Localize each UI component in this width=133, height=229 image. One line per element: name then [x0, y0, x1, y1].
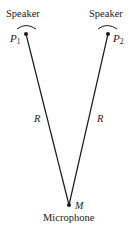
- microphone-label: Microphone: [43, 212, 95, 223]
- speaker-left-label: Speaker: [6, 8, 40, 19]
- speaker-left-arc-icon: [17, 26, 36, 30]
- distance-right-label: R: [96, 113, 104, 124]
- point-m: [67, 203, 71, 207]
- speaker-right-arc-icon: [98, 26, 117, 30]
- point-p1: [24, 32, 28, 36]
- point-p2: [106, 32, 110, 36]
- microphone-point-label: M: [74, 200, 84, 211]
- line-p1-to-m: [26, 34, 69, 205]
- distance-left-label: R: [33, 113, 41, 124]
- speaker-right-label: Speaker: [89, 8, 123, 19]
- p2-label: P2: [112, 32, 124, 46]
- p1-label: P1: [9, 32, 21, 46]
- two-speaker-microphone-diagram: Speaker Speaker P1 P2 R R M Microphone: [0, 0, 133, 229]
